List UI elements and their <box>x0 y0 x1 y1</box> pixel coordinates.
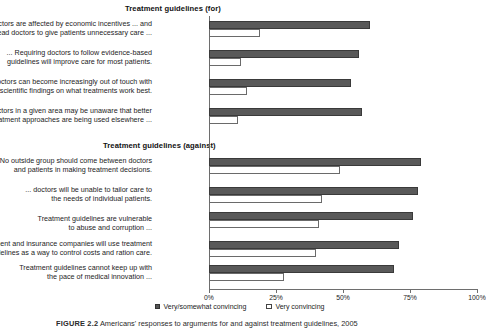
x-axis-tick-label: 50% <box>336 294 350 301</box>
bar-very-convincing <box>209 29 260 37</box>
category-label-against-4: Treatment guidelines cannot keep up with… <box>0 264 152 281</box>
category-label-for-0: ... doctors are affected by economic inc… <box>0 20 152 37</box>
figure-caption: FIGURE 2.2 Americans' responses to argum… <box>56 319 456 328</box>
figure-caption-text: Americans' responses to arguments for an… <box>100 319 358 328</box>
x-axis-tick-label: 0% <box>204 294 214 301</box>
bar-very-convincing <box>209 249 316 257</box>
category-label-against-2: Treatment guidelines are vulnerable to a… <box>0 215 152 232</box>
bar-very-somewhat-convincing <box>209 241 399 249</box>
bar-very-somewhat-convincing <box>209 158 421 166</box>
bar-very-somewhat-convincing <box>209 79 351 87</box>
category-label-for-3: ... doctors in a given area may be unawa… <box>0 107 152 124</box>
figure-number: FIGURE 2.2 <box>56 319 98 328</box>
legend-item-very: Very convincing <box>266 303 324 310</box>
category-label-line2: treatment approaches are being used else… <box>0 116 152 125</box>
category-label-line2: and patients in making treatment decisio… <box>0 166 152 175</box>
bar-very-somewhat-convincing <box>209 265 394 273</box>
legend-item-very-somewhat: Very/somewhat convincing <box>155 303 247 310</box>
category-label-for-1: ... Requiring doctors to follow evidence… <box>0 49 152 66</box>
bar-very-somewhat-convincing <box>209 21 370 29</box>
x-axis-tick <box>477 289 478 293</box>
legend: Very/somewhat convincing Very convincing <box>0 303 479 310</box>
bar-very-convincing <box>209 166 340 174</box>
legend-swatch-filled-icon <box>155 304 161 310</box>
category-label-line2: guidelines as a way to control costs and… <box>0 249 152 258</box>
category-label-against-3: The government and insurance companies w… <box>0 240 152 257</box>
bar-very-somewhat-convincing <box>209 187 418 195</box>
bar-very-convincing <box>209 220 319 228</box>
category-label-for-2: ... doctors can become increasingly out … <box>0 78 152 95</box>
category-label-line2: this can lead doctors to give patients u… <box>0 29 152 38</box>
x-axis-tick <box>276 289 277 293</box>
bar-very-convincing <box>209 273 284 281</box>
bar-very-somewhat-convincing <box>209 212 413 220</box>
bar-very-somewhat-convincing <box>209 108 362 116</box>
category-label-line2: to abuse and corruption ... <box>0 224 152 233</box>
section-heading-against: Treatment guidelines (against) <box>103 141 216 150</box>
legend-label: Very convincing <box>275 303 324 310</box>
category-label-line2: the needs of individual patients. <box>0 195 152 204</box>
category-label-line2: the pace of medical innovation ... <box>0 273 152 282</box>
section-heading-for: Treatment guidelines (for) <box>125 4 221 13</box>
x-axis-tick <box>209 289 210 293</box>
category-label-against-0: No outside group should come between doc… <box>0 157 152 174</box>
bar-very-somewhat-convincing <box>209 50 359 58</box>
legend-label: Very/somewhat convincing <box>164 303 247 310</box>
bar-very-convincing <box>209 87 247 95</box>
x-axis-tick-label: 75% <box>403 294 417 301</box>
x-axis-tick-label: 100% <box>468 294 485 301</box>
x-axis-tick <box>410 289 411 293</box>
category-label-line2: guidelines will improve care for most pa… <box>0 58 152 67</box>
category-label-against-1: ... doctors will be unable to tailor car… <box>0 186 152 203</box>
x-axis-tick <box>343 289 344 293</box>
bar-very-convincing <box>209 195 322 203</box>
bar-very-convincing <box>209 116 238 124</box>
legend-swatch-outline-icon <box>266 304 272 310</box>
category-label-line2: the latest scientific findings on what t… <box>0 87 152 96</box>
x-axis-tick-label: 25% <box>269 294 283 301</box>
bar-very-convincing <box>209 58 241 66</box>
